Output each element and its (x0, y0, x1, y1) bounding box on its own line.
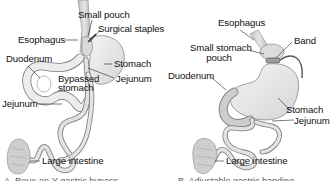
label-small-stomach-pouch-line2: pouch (190, 53, 248, 63)
caption-left: A. Roux-en-Y gastric bypass (4, 174, 118, 181)
label-bypassed-stomach-line2: stomach (58, 83, 94, 93)
caption-right: B. Adjustable gastric banding (178, 174, 294, 181)
label-surgical-staples: Surgical staples (98, 24, 164, 34)
label-stomach-right: Stomach (286, 105, 323, 115)
label-large-intestine-right: Large intestine (226, 156, 287, 166)
label-esophagus-left: Esophagus (18, 35, 65, 45)
label-jejunum-upper-left: Jejunum (116, 74, 152, 84)
label-duodenum-right: Duodenum (168, 71, 214, 81)
label-large-intestine-left: Large intestine (42, 156, 103, 166)
label-duodenum-left: Duodenum (6, 54, 52, 64)
bariatric-surgery-diagram: Small pouch Surgical staples Esophagus D… (0, 0, 332, 181)
anatomy-illustration (0, 0, 332, 181)
label-jejunum-lower-left: Jejunum (2, 99, 38, 109)
label-small-pouch: Small pouch (78, 10, 130, 20)
label-band: Band (294, 36, 316, 46)
label-stomach-left: Stomach (114, 59, 151, 69)
label-jejunum-right: Jejunum (294, 116, 330, 126)
label-esophagus-right: Esophagus (218, 18, 265, 28)
